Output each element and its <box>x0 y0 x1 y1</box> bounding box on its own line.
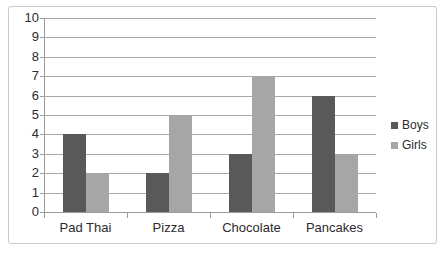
y-axis-tick <box>40 173 44 174</box>
gridline <box>44 76 376 77</box>
gridline <box>44 57 376 58</box>
legend-label: Girls <box>402 139 427 151</box>
plot-area <box>44 18 376 212</box>
y-axis-tick-label: 7 <box>13 69 39 82</box>
bar-girls-chocolate <box>252 76 275 212</box>
y-axis-tick <box>40 154 44 155</box>
x-axis-label-pizza: Pizza <box>127 220 210 235</box>
gridline <box>44 18 376 19</box>
y-axis-tick <box>40 96 44 97</box>
bar-girls-pad-thai <box>86 173 109 212</box>
legend-label: Boys <box>402 119 429 131</box>
bar-girls-pizza <box>169 115 192 212</box>
y-axis-tick-label: 10 <box>13 11 39 24</box>
x-axis-tick <box>376 213 377 218</box>
y-axis-tick <box>40 193 44 194</box>
y-axis-tick <box>40 76 44 77</box>
x-axis-label-pancakes: Pancakes <box>293 220 376 235</box>
x-axis-tick <box>293 213 294 218</box>
chart-frame: 109876543210 Pad ThaiPizzaChocolatePanca… <box>8 6 437 244</box>
legend-item-girls[interactable]: Girls <box>391 135 437 155</box>
x-axis-label-pad-thai: Pad Thai <box>44 220 127 235</box>
y-axis-labels: 109876543210 <box>10 18 39 212</box>
y-axis-tick <box>40 57 44 58</box>
y-axis-tick <box>40 18 44 19</box>
legend-swatch-icon <box>391 122 398 129</box>
y-axis-tick <box>40 37 44 38</box>
y-axis-tick <box>40 115 44 116</box>
bar-boys-pancakes <box>312 96 335 212</box>
bar-girls-pancakes <box>335 154 358 212</box>
y-axis-tick-label: 6 <box>13 89 39 102</box>
y-axis-tick-label: 0 <box>13 205 39 218</box>
y-axis-tick-label: 3 <box>13 147 39 160</box>
y-axis-tick <box>40 134 44 135</box>
legend-swatch-icon <box>391 142 398 149</box>
legend-item-boys[interactable]: Boys <box>391 115 437 135</box>
y-axis-tick-label: 9 <box>13 30 39 43</box>
x-axis-tick <box>44 213 45 218</box>
bar-boys-pad-thai <box>63 134 86 212</box>
gridline <box>44 37 376 38</box>
x-axis-tick <box>210 213 211 218</box>
chart-legend: BoysGirls <box>391 115 437 155</box>
x-axis-label-chocolate: Chocolate <box>210 220 293 235</box>
y-axis-tick-label: 5 <box>13 108 39 121</box>
y-axis-tick-label: 8 <box>13 50 39 63</box>
bar-boys-chocolate <box>229 154 252 212</box>
x-axis-tick <box>127 213 128 218</box>
y-axis-tick-label: 1 <box>13 186 39 199</box>
y-axis-tick-label: 4 <box>13 127 39 140</box>
y-axis-tick-label: 2 <box>13 166 39 179</box>
bar-boys-pizza <box>146 173 169 212</box>
